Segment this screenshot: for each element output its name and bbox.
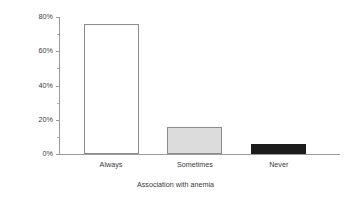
- y-axis-minor-tick: [57, 103, 59, 104]
- y-tick-label: 40%: [27, 81, 53, 90]
- y-axis-minor-tick: [57, 68, 59, 69]
- x-axis-line: [59, 154, 340, 155]
- y-tick-label: 80%: [27, 12, 53, 21]
- y-axis-major-tick: [56, 17, 59, 18]
- bar-never: [251, 144, 306, 154]
- y-axis-minor-tick: [57, 34, 59, 35]
- bar-always: [84, 24, 139, 154]
- y-axis-tick-labels: 80% 60% 40% 20% 0%: [27, 0, 53, 201]
- bar-sometimes: [167, 127, 222, 154]
- y-axis-major-tick: [56, 86, 59, 87]
- y-axis-major-tick: [56, 120, 59, 121]
- y-tick-label: 60%: [27, 46, 53, 55]
- x-tick-label: Sometimes: [155, 160, 235, 169]
- x-axis-label: Association with anemia: [0, 180, 351, 189]
- plot-area: [59, 17, 340, 155]
- y-axis-minor-tick: [57, 137, 59, 138]
- bar-chart-figure: Proportion of reports 80% 60% 40% 20% 0%…: [0, 0, 351, 201]
- x-tick-label: Never: [239, 160, 319, 169]
- y-tick-label: 20%: [27, 115, 53, 124]
- y-axis-major-tick: [56, 51, 59, 52]
- y-tick-label: 0%: [27, 149, 53, 158]
- y-axis-line: [59, 17, 60, 155]
- x-tick-label: Always: [71, 160, 151, 169]
- y-axis-major-tick: [56, 154, 59, 155]
